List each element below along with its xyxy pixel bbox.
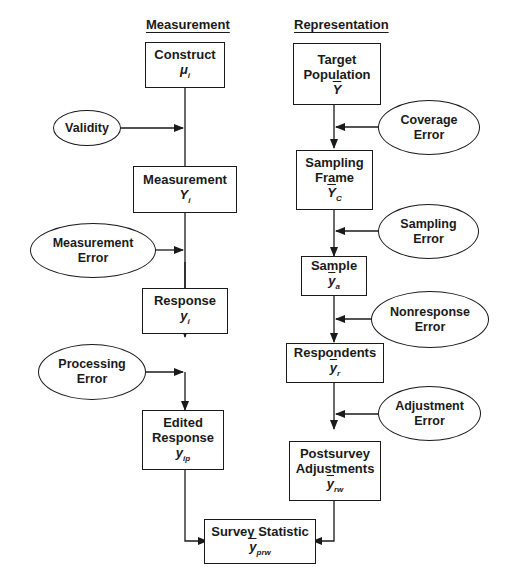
box-construct: Construct μi [145,42,225,88]
box-label-line1: Sampling [305,155,364,170]
box-label-line2: Adjustments [296,461,375,476]
box-label: Sample [311,258,357,273]
box-label-line2: Frame [315,170,354,185]
box-label-line1: Postsurvey [300,446,370,461]
ellipse-processing-error: Processing Error [38,344,146,400]
box-label-line1: Target [318,52,357,67]
box-label: Construct [154,47,215,62]
symbol-Y-i: Yi [180,187,191,208]
box-label-line1: Edited [163,415,203,430]
box-response: Response yi [142,288,228,334]
ellipse-label-line1: Nonresponse [390,305,470,320]
ellipse-sampling-error: Sampling Error [378,204,479,259]
ellipse-coverage-error: Coverage Error [378,100,480,155]
ellipse-label: Validity [65,121,109,136]
ellipse-label-line2: Error [77,372,108,387]
ellipse-label-line1: Coverage [401,113,458,128]
ellipse-adjustment-error: Adjustment Error [378,386,481,441]
box-edited-response: Edited Response yip [142,410,224,470]
symbol-y-bar-r: yr [330,360,340,381]
box-sampling-frame: Sampling Frame YC [296,150,373,210]
symbol-y-bar-a: ya [328,273,340,294]
box-label: Respondents [294,345,376,360]
ellipse-validity: Validity [53,110,121,146]
ellipse-label-line2: Error [78,251,109,266]
symbol-mu-i: μi [180,62,190,83]
ellipse-label-line2: Error [413,232,444,247]
symbol-y-bar-prw: yprw [249,539,270,560]
box-label-line2: Response [152,430,214,445]
box-label-line2: Population [303,67,370,82]
box-survey-statistic: Survey Statistic yprw [204,519,316,564]
ellipse-measurement-error: Measurement Error [30,223,156,278]
ellipse-nonresponse-error: Nonresponse Error [371,291,489,348]
symbol-y-ip: yip [176,445,190,466]
box-measurement: Measurement Yi [133,166,237,213]
box-sample: Sample ya [301,256,367,296]
box-label: Response [154,293,216,308]
box-respondents: Respondents yr [286,343,384,383]
ellipse-label-line2: Error [415,320,446,335]
box-label: Survey Statistic [211,524,309,539]
box-label: Measurement [143,172,227,187]
symbol-Y-bar: Y [333,82,342,97]
heading-measurement: Measurement [146,17,230,32]
symbol-y-i: yi [180,308,189,329]
heading-representation: Representation [294,17,389,32]
ellipse-label-line2: Error [414,414,445,429]
ellipse-label-line1: Sampling [400,217,456,232]
symbol-Y-bar-C: YC [327,185,341,206]
box-target-population: Target Population Y [293,43,381,105]
symbol-y-bar-rw: yrw [327,476,344,497]
ellipse-label-line2: Error [414,128,445,143]
box-postsurvey-adjustments: Postsurvey Adjustments yrw [289,441,381,501]
ellipse-label-line1: Processing [58,357,125,372]
ellipse-label-line1: Measurement [53,236,134,251]
ellipse-label-line1: Adjustment [395,399,464,414]
